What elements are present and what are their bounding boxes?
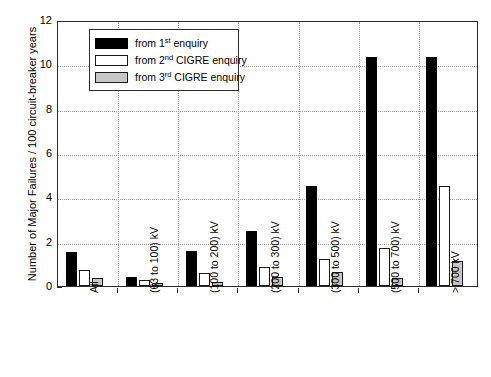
bar xyxy=(246,231,257,286)
y-axis-tick-label: 0 xyxy=(30,280,52,292)
bar xyxy=(426,57,437,286)
bar xyxy=(126,277,137,286)
x-axis-tick-label: > 700 kV xyxy=(449,251,461,293)
x-axis-tick-mark xyxy=(418,288,419,293)
gridline-horizontal xyxy=(58,199,477,200)
gridline-horizontal xyxy=(58,244,477,245)
gridline-vertical xyxy=(299,22,300,286)
gridline-vertical xyxy=(419,22,420,286)
x-axis-tick-mark xyxy=(117,288,118,293)
y-axis-tick-label: 8 xyxy=(30,103,52,115)
y-axis-tick-label: 10 xyxy=(30,58,52,70)
y-axis-tick-label: 4 xyxy=(30,191,52,203)
legend-swatch xyxy=(95,55,128,66)
y-axis-tick-label: 2 xyxy=(30,236,52,248)
chart-legend: from 1st enquiryfrom 2nd CIGRE enquiryfr… xyxy=(89,29,239,91)
bar xyxy=(186,251,197,286)
y-axis-tick-label: 6 xyxy=(30,147,52,159)
bar xyxy=(66,252,77,286)
x-axis-tick-label: (200 to 300) kV xyxy=(269,221,281,293)
legend-label: from 1st enquiry xyxy=(135,37,208,49)
x-axis-tick-mark xyxy=(298,288,299,293)
x-axis-tick-label: All xyxy=(88,281,100,293)
x-axis-tick-label: (100 to 200) kV xyxy=(208,221,220,293)
x-axis-tick-mark xyxy=(237,288,238,293)
y-axis-tick-label: 12 xyxy=(30,14,52,26)
x-axis-tick-label: (500 to 700) kV xyxy=(389,221,401,293)
bar-chart-figure: Number of Major Failures / 100 circuit-b… xyxy=(0,0,491,377)
y-axis-tick-mark xyxy=(57,287,62,288)
legend-item: from 3rd CIGRE enquiry xyxy=(95,69,233,85)
x-axis-tick-mark xyxy=(358,288,359,293)
x-axis-tick-label: (300 to 500) kV xyxy=(329,221,341,293)
x-axis-tick-label: (63 to 100) kV xyxy=(148,227,160,293)
legend-item: from 1st enquiry xyxy=(95,35,233,51)
legend-label: from 2nd CIGRE enquiry xyxy=(135,54,247,66)
x-axis-tick-mark xyxy=(177,288,178,293)
legend-swatch xyxy=(95,72,128,83)
gridline-horizontal xyxy=(58,111,477,112)
gridline-vertical xyxy=(359,22,360,286)
legend-label: from 3rd CIGRE enquiry xyxy=(135,71,245,83)
bar xyxy=(306,186,317,286)
legend-swatch xyxy=(95,38,128,49)
legend-item: from 2nd CIGRE enquiry xyxy=(95,52,233,68)
bar xyxy=(366,57,377,286)
gridline-horizontal xyxy=(58,155,477,156)
